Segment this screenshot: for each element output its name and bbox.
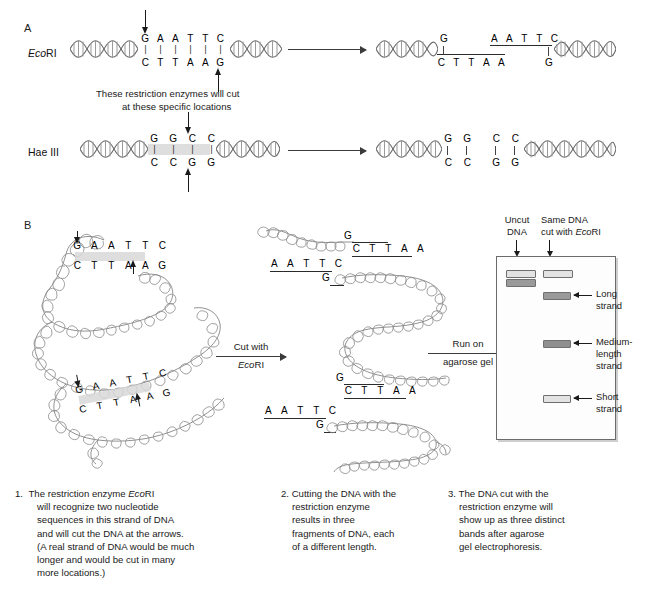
fragment-2-end-bottom: C T T A A [344,385,417,396]
product-right-bond-ecori [548,47,549,56]
gel-lane-2-italic: Eco [575,226,591,237]
base: C [352,243,361,254]
base: T [111,396,122,409]
caption-3-line-2: restriction enzyme will [448,500,608,513]
fragment-2-start-bottom-base: G [322,272,330,283]
recognition-site-1-top: G A A T T C [73,240,167,251]
caption-3: 3. The DNA cut with the restriction enzy… [448,487,608,553]
base: T [452,57,461,68]
base: C [492,133,501,144]
fragment-3-start-bottom-base: G [316,419,324,430]
base: T [171,57,180,68]
product-left-bottom-sequence-ecori: C T T A A [437,57,506,68]
bond: | [188,146,197,153]
fragment-2-coil [340,268,450,398]
product-left-bottom-haeiii: C C [444,157,472,168]
caption-1-line-1: 1. The restriction enzyme EcoRI [26,487,241,500]
gel-band-medium-strand [543,340,571,348]
bond: | [207,146,216,153]
caption-3-line-5: gel electrophoresis. [448,540,608,553]
caption-1-line-7: more locations.) [26,566,241,579]
caption-1-line-4: and will cut the DNA at the arrows. [26,527,241,540]
gel-arrow-short [574,398,592,399]
bond: | [150,146,159,153]
base: G [463,133,472,144]
base: T [312,405,321,416]
caption-2-line-5: of a different length. [281,540,431,553]
gel-band-lane1-uncut [506,279,536,287]
base: C [188,133,197,144]
base: T [376,385,385,396]
gel-band-label-long-line1: Long [596,288,642,300]
base: T [124,373,135,386]
base: C [511,133,520,144]
base: C [169,157,178,168]
dna-helix-product-right-ecori [554,36,616,62]
base: A [171,33,180,44]
cut-arrow-site1-top [77,231,78,238]
base: A [482,57,491,68]
fragment-2-end-top-base: G [336,372,344,383]
base: A [408,385,417,396]
base: G [492,157,501,168]
product-right-bond1-haeiii [495,146,496,155]
product-right-top-haeiii: C C [492,133,520,144]
gel-band-label-medium-line3: strand [596,360,646,372]
base: G [216,57,225,68]
cut-arrow-top-ecori [145,10,146,28]
base: T [302,258,311,269]
base: A [186,57,195,68]
base: T [90,260,99,271]
dna-helix-product-left-ecori [376,36,438,62]
base: C [344,385,353,396]
base: G [141,33,150,44]
caption-3-line-4: bands after agarose [448,527,608,540]
base: T [141,240,150,251]
gel-band-short-strand [543,395,571,403]
product-left-top-haeiii: G G [444,133,472,144]
gel-lane-2-label-line2: cut with EcoRI [541,226,633,238]
dna-helix-ecori-right [230,36,282,62]
base: T [156,57,165,68]
caption-2-line-2: restriction enzyme [281,500,431,513]
base: A [490,33,499,44]
gel-band-long-strand [543,292,571,300]
base: A [400,243,409,254]
recognition-site-1-bottom: C T T A A G [73,260,167,271]
base: T [186,33,195,44]
bond: | [186,46,195,53]
cut-arrow-label-line1: Cut with [215,341,287,352]
caption-1-line-5: (A real strand of DNA would be much [26,540,241,553]
base: T [520,33,529,44]
gel-band-lane2-well [543,270,573,278]
caption-1-line-3: sequences in this strand of DNA [26,513,241,526]
gel-lane-2-label-line1: Same DNA [541,214,633,226]
enzyme-label-ecori-italic: Eco [28,47,46,59]
fragment-1-backbone-bottom [352,256,412,257]
base: G [150,133,159,144]
base: A [270,258,279,269]
base: G [207,157,216,168]
caption-1: 1. The restriction enzyme EcoRI will rec… [26,487,241,579]
enzyme-label-ecori: EcoRI [28,47,57,59]
base: A [107,376,118,389]
base: C [463,157,472,168]
caption-3-line-1: 3. The DNA cut with the [448,487,608,500]
base: T [141,370,152,383]
dna-helix-haeiii-right [216,136,280,162]
caption-2-number: 2. [281,487,289,500]
bond: | [141,46,150,53]
base: C [73,260,82,271]
caption-2: 2. Cutting the DNA with the restriction … [281,487,431,553]
fragment-2-start-top: A A T T C [270,258,343,269]
caption-1-line-6: longer and would be cut in many [26,553,241,566]
gel-lane-2-prefix: cut with [541,226,575,237]
product-right-bottom-base-ecori: G [545,57,553,68]
ecori-bottom-sequence: C T T A A G [141,57,225,68]
gel-lane-2-arrow [549,240,550,252]
cut-arrow-bottom-haeiii [188,174,189,192]
panel-letter-a: A [24,22,31,34]
haeiii-top-sequence: G G C C [150,133,216,144]
cut-note-line-1: These restriction enzymes will cut [96,88,239,99]
base: C [158,240,167,251]
